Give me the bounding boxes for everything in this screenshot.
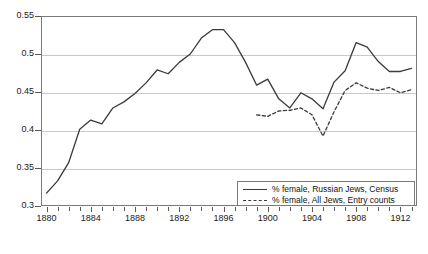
legend-swatch-dashed-icon bbox=[243, 196, 267, 205]
x-axis-tick-mark bbox=[356, 207, 357, 212]
x-axis-tick-mark bbox=[168, 207, 169, 211]
x-axis-tick-mark bbox=[257, 207, 258, 211]
x-axis-tick-mark bbox=[246, 207, 247, 211]
x-axis-tick-mark bbox=[91, 207, 92, 212]
x-axis-tick-label: 1892 bbox=[169, 214, 189, 223]
x-axis-tick-mark bbox=[290, 207, 291, 211]
x-axis-tick-label: 1912 bbox=[390, 214, 410, 223]
x-axis-tick-mark bbox=[102, 207, 103, 211]
legend-swatch-solid-icon bbox=[243, 185, 267, 194]
legend-label-russian-jews-census: % female, Russian Jews, Census bbox=[272, 184, 398, 195]
x-axis-tick-mark bbox=[412, 207, 413, 211]
x-axis-tick-label: 1904 bbox=[302, 214, 322, 223]
x-axis-ticks: 188018841888189218961900190419081912 bbox=[0, 0, 428, 254]
x-axis-tick-mark bbox=[323, 207, 324, 211]
x-axis-tick-label: 1900 bbox=[258, 214, 278, 223]
x-axis-tick-mark bbox=[179, 207, 180, 212]
x-axis-tick-mark bbox=[400, 207, 401, 212]
x-axis-tick-label: 1884 bbox=[81, 214, 101, 223]
x-axis-tick-mark bbox=[378, 207, 379, 211]
x-axis-tick-mark bbox=[146, 207, 147, 211]
x-axis-tick-mark bbox=[235, 207, 236, 211]
legend-item-all-jews-entry-counts: % female, All Jews, Entry counts bbox=[243, 195, 410, 206]
x-axis-tick-label: 1880 bbox=[36, 214, 56, 223]
x-axis-tick-label: 1888 bbox=[125, 214, 145, 223]
x-axis-tick-mark bbox=[80, 207, 81, 211]
x-axis-tick-mark bbox=[212, 207, 213, 211]
x-axis-tick-mark bbox=[301, 207, 302, 211]
x-axis-tick-mark bbox=[367, 207, 368, 211]
legend-label-all-jews-entry-counts: % female, All Jews, Entry counts bbox=[272, 195, 395, 206]
x-axis-tick-mark bbox=[334, 207, 335, 211]
legend-item-russian-jews-census: % female, Russian Jews, Census bbox=[243, 184, 410, 195]
chart-container: 0.30.350.40.450.50.55 188018841888189218… bbox=[0, 0, 428, 254]
x-axis-tick-mark bbox=[201, 207, 202, 211]
x-axis-tick-mark bbox=[69, 207, 70, 211]
x-axis-tick-mark bbox=[312, 207, 313, 212]
x-axis-tick-mark bbox=[279, 207, 280, 211]
x-axis-tick-label: 1896 bbox=[213, 214, 233, 223]
x-axis-tick-mark bbox=[113, 207, 114, 211]
x-axis-tick-mark bbox=[224, 207, 225, 212]
x-axis-tick-mark bbox=[268, 207, 269, 212]
x-axis-tick-mark bbox=[58, 207, 59, 211]
x-axis-tick-mark bbox=[389, 207, 390, 211]
x-axis-tick-mark bbox=[345, 207, 346, 211]
x-axis-tick-label: 1908 bbox=[346, 214, 366, 223]
chart-legend: % female, Russian Jews, Census % female,… bbox=[237, 181, 415, 206]
x-axis-tick-mark bbox=[135, 207, 136, 212]
x-axis-tick-mark bbox=[190, 207, 191, 211]
x-axis-tick-mark bbox=[47, 207, 48, 212]
x-axis-tick-mark bbox=[124, 207, 125, 211]
x-axis-tick-mark bbox=[157, 207, 158, 211]
